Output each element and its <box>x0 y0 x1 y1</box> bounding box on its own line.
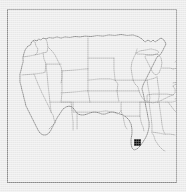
midwest-states <box>115 49 162 103</box>
west-coast-states <box>22 39 73 130</box>
kentucky-west-virginia-border <box>173 86 175 95</box>
montana-wyoming-border <box>62 69 88 71</box>
alabama-georgia-border <box>159 102 165 134</box>
map-markers <box>134 139 141 146</box>
florida-peninsula <box>152 133 165 151</box>
nebraska-iowa-border <box>115 80 118 91</box>
minnesota-wisconsin-border <box>131 49 137 80</box>
marker-florida <box>134 139 141 146</box>
ohio-west-virginia-border <box>158 95 173 102</box>
new-york-outline <box>175 54 177 68</box>
mississippi-alabama-border <box>149 102 152 132</box>
michigan-upper-peninsula <box>136 49 159 55</box>
virginia-north-carolina-border <box>175 96 177 99</box>
nevada-utah-border <box>46 64 50 102</box>
indiana-ohio-border <box>157 77 159 102</box>
iowa-illinois-border <box>133 80 139 91</box>
south-dakota-nebraska-border <box>88 79 115 80</box>
georgia-south-carolina-border <box>168 102 177 116</box>
colorado-kansas-border <box>88 91 90 102</box>
ohio-pennsylvania-border <box>162 68 173 69</box>
pennsylvania-maryland-border <box>173 80 177 83</box>
utah-colorado-border <box>61 71 62 102</box>
michigan-indiana-ohio-border <box>147 77 157 80</box>
tennessee-georgia-carolina-border <box>166 101 177 102</box>
mountain-plains-states <box>61 38 127 129</box>
kansas-missouri-border <box>117 91 119 102</box>
illinois-indiana-border <box>147 80 150 102</box>
eastern-states <box>158 42 177 109</box>
georgia-florida-border <box>152 132 175 135</box>
texas-louisiana-border <box>121 111 127 129</box>
new-mexico-texas-border <box>73 102 77 129</box>
dakotas-minnesota-border <box>114 58 115 80</box>
oregon-california-border <box>22 72 45 75</box>
louisiana-mississippi-border <box>140 116 144 131</box>
idaho-montana-border <box>48 47 62 71</box>
figure-container <box>0 0 186 192</box>
california-nevada-border <box>34 74 51 112</box>
california-arizona-border <box>51 112 55 123</box>
pennsylvania-new-york-border <box>173 65 177 69</box>
us-map <box>7 9 177 183</box>
wyoming-colorado-border <box>61 91 88 93</box>
oregon-idaho-border <box>43 53 46 72</box>
arizona-new-mexico-border <box>71 102 73 130</box>
oklahoma-texas-border <box>77 111 121 114</box>
